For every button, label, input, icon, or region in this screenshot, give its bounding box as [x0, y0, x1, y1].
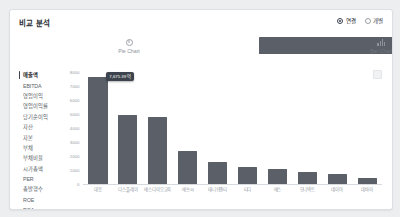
- bar[interactable]: [298, 172, 317, 184]
- mode-radio-group: 연결 개별: [337, 17, 383, 25]
- bar-column[interactable]: [173, 72, 203, 184]
- comparison-analysis-card: 비교 분석 연결 개별 Pie Chart: [9, 9, 393, 210]
- bar[interactable]: [328, 174, 347, 184]
- bar-column[interactable]: [292, 72, 322, 184]
- y-axis-tick: 7000: [70, 84, 80, 89]
- metric-label: 부채: [23, 144, 33, 152]
- y-axis-tick: 4000: [70, 126, 80, 131]
- bar[interactable]: [238, 167, 257, 185]
- y-axis-tick: 6000: [70, 98, 80, 103]
- x-axis-label: 태니쉬엔티: [203, 186, 233, 192]
- pie-chart-icon: [125, 37, 134, 46]
- metric-label: 시가총액: [23, 165, 43, 173]
- bar-column[interactable]: [322, 72, 352, 184]
- y-axis-tick: 5000: [70, 112, 80, 117]
- y-axis-tick: 2000: [70, 154, 80, 159]
- metric-label: 영업이익: [23, 92, 43, 100]
- metric-label: 자산: [23, 123, 33, 131]
- x-axis-label: 모니텍트: [292, 186, 322, 192]
- metric-item-net-income[interactable]: 당기순이익: [19, 112, 63, 122]
- bar-series: 7,675.39 억: [83, 72, 382, 184]
- tab-pie-chart[interactable]: Pie Chart: [94, 37, 164, 54]
- bar[interactable]: [268, 169, 287, 184]
- metric-item-revenue[interactable]: 매출액: [19, 70, 63, 80]
- metric-item-operating-margin[interactable]: 영업이익률: [19, 101, 63, 111]
- bar[interactable]: [88, 77, 107, 184]
- x-axis-label: 에스: [262, 186, 292, 192]
- radio-separate-label: 개별: [373, 17, 383, 25]
- bar[interactable]: [118, 115, 137, 184]
- bar[interactable]: [148, 117, 167, 184]
- card-header: 비교 분석 연결 개별: [10, 10, 392, 36]
- metric-label: PER: [23, 176, 34, 182]
- metric-item-roe[interactable]: ROE: [19, 195, 63, 205]
- metric-label: ROA: [23, 207, 34, 210]
- metric-label: 영업이익률: [23, 102, 48, 110]
- bar-column[interactable]: [233, 72, 263, 184]
- plot-area: 7,675.39 억: [83, 72, 382, 185]
- x-axis-label: 대응: [83, 186, 113, 192]
- bar-chart: 800070006000500040003000200010000 7,675.…: [66, 72, 382, 202]
- metric-item-assets[interactable]: 자산: [19, 122, 63, 132]
- metric-label: 매출액: [23, 71, 38, 79]
- radio-consolidated-label: 연결: [346, 17, 356, 25]
- x-axis-labels: 대응디스플레이에스디이오교육에쓰씨태니쉬엔티티디에스모니텍트네이아대바이: [83, 186, 382, 192]
- tab-bar-chart[interactable]: Bar Chart: [259, 37, 393, 54]
- tab-pie-chart-label: Pie Chart: [118, 48, 140, 54]
- bar-column[interactable]: [113, 72, 143, 184]
- bar-column[interactable]: [143, 72, 173, 184]
- x-axis-label: 디스플레이: [113, 186, 143, 192]
- x-axis-label: 에스디이오교육: [143, 186, 173, 192]
- x-axis-label: 티디: [233, 186, 263, 192]
- tab-bar-chart-label: Bar Chart: [370, 48, 392, 54]
- bar-chart-icon: [377, 37, 386, 46]
- screen: 비교 분석 연결 개별 Pie Chart: [0, 0, 400, 217]
- x-axis-label: 대바이: [352, 186, 382, 192]
- metric-label: 자본: [23, 134, 33, 142]
- y-axis-tick: 3000: [70, 140, 80, 145]
- radio-consolidated[interactable]: 연결: [337, 17, 356, 25]
- y-axis-tick: 1000: [70, 168, 80, 173]
- x-axis-label: 에쓰씨: [173, 186, 203, 192]
- x-axis-label: 네이아: [322, 186, 352, 192]
- metric-item-ebitda[interactable]: EBITDA: [19, 80, 63, 90]
- radio-separate[interactable]: 개별: [365, 17, 384, 25]
- chart-type-tabs: Pie Chart Bar Chart: [10, 37, 392, 61]
- metric-item-shares[interactable]: 총발행수: [19, 184, 63, 194]
- bar-tooltip: 7,675.39 억: [106, 72, 134, 81]
- radio-separate-dot: [365, 18, 371, 24]
- metric-item-equity[interactable]: 자본: [19, 132, 63, 142]
- metric-item-debt-ratio[interactable]: 부채비율: [19, 153, 63, 163]
- metric-item-market-cap[interactable]: 시가총액: [19, 164, 63, 174]
- y-axis-tick: 0: [77, 182, 79, 187]
- page-title: 비교 분석: [19, 17, 50, 28]
- bar-column[interactable]: [262, 72, 292, 184]
- metric-label: 총발행수: [23, 185, 43, 193]
- bar[interactable]: [208, 162, 227, 184]
- bar-column[interactable]: [203, 72, 233, 184]
- bar-column[interactable]: [352, 72, 382, 184]
- radio-consolidated-dot: [337, 18, 343, 24]
- metric-item-liabilities[interactable]: 부채: [19, 143, 63, 153]
- metric-item-per[interactable]: PER: [19, 174, 63, 184]
- metric-item-operating-profit[interactable]: 영업이익: [19, 91, 63, 101]
- metric-list: 매출액 EBITDA 영업이익 영업이익률 당기순이익 자산 자본 부채 부채비…: [19, 70, 63, 210]
- y-axis: 800070006000500040003000200010000: [66, 72, 81, 184]
- metric-label: EBITDA: [23, 83, 42, 89]
- metric-label: 당기순이익: [23, 113, 48, 121]
- metric-item-roa[interactable]: ROA: [19, 205, 63, 210]
- y-axis-tick: 8000: [70, 70, 80, 75]
- bar[interactable]: [178, 151, 197, 184]
- metric-label: ROE: [23, 197, 34, 203]
- bar[interactable]: [358, 178, 377, 184]
- metric-label: 부채비율: [23, 154, 43, 162]
- bar-column[interactable]: 7,675.39 억: [83, 72, 113, 184]
